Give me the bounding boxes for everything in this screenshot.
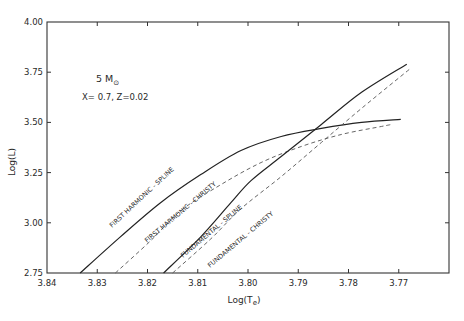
x-tick-label: 3.81 xyxy=(188,278,207,288)
x-tick-label: 3.80 xyxy=(239,278,258,288)
series-first-harmonic-spline xyxy=(80,119,401,273)
y-tick-label: 3.50 xyxy=(24,117,43,127)
x-tick-label: 3.78 xyxy=(339,278,358,288)
x-tick-label: 3.82 xyxy=(138,278,157,288)
y-axis-label: Log(L) xyxy=(7,148,17,176)
curve-label: FUNDAMENTAL - SPLINE xyxy=(179,203,244,259)
y-tick-label: 3.75 xyxy=(24,67,43,77)
series-first-harmonic-christy xyxy=(115,124,391,273)
x-tick-label: 3.77 xyxy=(389,278,408,288)
x-tick-label: 3.84 xyxy=(38,278,57,288)
y-tick-label: 2.75 xyxy=(24,268,43,278)
mass-annotation: 5 M⊙ xyxy=(96,73,119,87)
composition-annotation: X= 0.7, Z=0.02 xyxy=(82,92,148,102)
x-tick-label: 3.79 xyxy=(289,278,308,288)
series-fundamental-christy xyxy=(173,68,411,273)
x-axis-label: Log(Te) xyxy=(228,295,261,307)
y-tick-label: 3.25 xyxy=(24,168,43,178)
x-tick-label: 3.83 xyxy=(88,278,107,288)
y-tick-label: 4.00 xyxy=(24,17,43,27)
chart: 3.843.833.823.813.803.793.783.77 2.753.0… xyxy=(0,0,464,321)
y-tick-label: 3.00 xyxy=(24,218,43,228)
